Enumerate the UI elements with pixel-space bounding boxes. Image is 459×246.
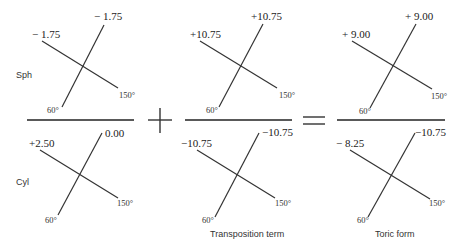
axis-line-150 [42,41,118,88]
row-label-sph: Sph [16,70,32,80]
sph-axis-low: 60° [206,105,218,115]
axis-line-60 [219,24,263,107]
sph-axis-high: 150° [279,90,295,100]
sph-axis-high: 150° [431,91,447,101]
cyl-axis-high: 150° [429,198,445,208]
column-transposition-term: +10.75 +10.75 60° 150° −10.75 −10.75 60°… [181,10,295,239]
sph-axis-high: 150° [119,90,135,100]
caption-toric-form: Toric form [375,229,415,239]
cyl-axis-low: 60° [357,215,369,225]
axis-line-150 [40,150,118,198]
cyl-cross: +2.50 0.00 60° 150° [29,127,133,225]
axis-line-60 [62,25,104,107]
sph-cross: − 1.75 − 1.75 60° 150° [32,10,135,115]
column-original: − 1.75 − 1.75 60° 150° +2.50 0.00 60° 15… [27,10,135,225]
cyl-top-value: 0.00 [105,127,125,139]
cyl-left-value: − 8.25 [336,137,365,149]
sph-top-value: − 1.75 [94,10,123,22]
cyl-axis-high: 150° [117,198,133,208]
cyl-top-value: −10.75 [262,126,293,138]
sph-cross: +10.75 +10.75 60° 150° [190,10,295,115]
column-toric-form: + 9.00 + 9.00 60° 150° − 8.25 −10.75 60°… [336,10,447,239]
cyl-left-value: +2.50 [29,137,55,149]
axis-line-60 [370,24,416,108]
cyl-top-value: −10.75 [415,126,446,138]
sph-left-value: − 1.75 [32,28,61,40]
axis-line-150 [352,41,432,89]
axis-line-150 [197,150,275,198]
equals-operator [303,117,325,124]
sph-top-value: + 9.00 [405,10,434,22]
sph-cross: + 9.00 + 9.00 60° 150° [342,10,447,116]
row-label-cyl: Cyl [16,177,29,187]
cyl-left-value: −10.75 [181,137,212,149]
cyl-cross: −10.75 −10.75 60° 150° [181,126,293,225]
axis-line-150 [350,150,430,199]
cyl-axis-high: 150° [275,198,291,208]
sph-left-value: +10.75 [190,28,221,40]
cyl-axis-low: 60° [202,215,214,225]
axis-line-150 [200,41,277,88]
sph-left-value: + 9.00 [342,28,371,40]
cyl-axis-low: 60° [45,215,57,225]
axis-line-60 [58,133,102,215]
sph-axis-low: 60° [47,105,59,115]
axis-line-60 [215,133,259,217]
axis-line-60 [368,133,415,217]
caption-transposition-term: Transposition term [210,229,284,239]
transposition-diagram: Sph Cyl − 1.75 − 1.75 60° 150° +2.50 0.0… [0,0,459,246]
cyl-cross: − 8.25 −10.75 60° 150° [336,126,446,225]
plus-operator [148,108,172,133]
sph-top-value: +10.75 [251,10,282,22]
sph-axis-low: 60° [359,106,371,116]
